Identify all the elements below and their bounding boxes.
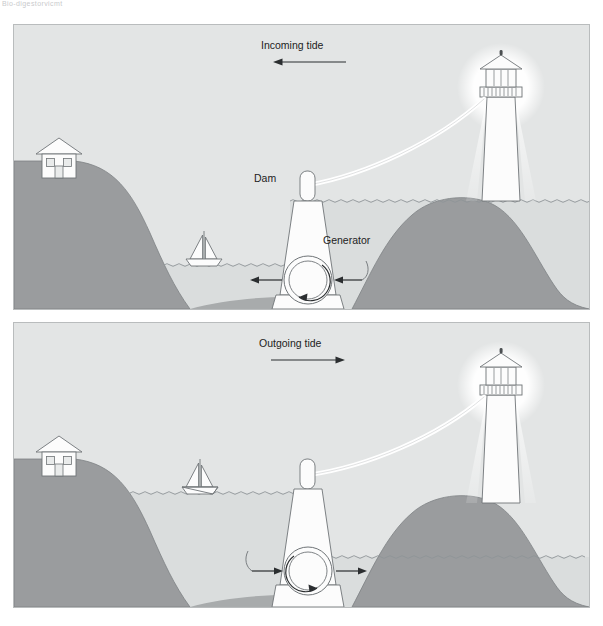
- generator-label: Generator: [323, 234, 370, 246]
- diagram-panel-outgoing-tide: Outgoing tide: [13, 322, 590, 608]
- faint-header-bar: Bio-digestorvicmt: [0, 0, 603, 9]
- lighthouse-icon: [480, 348, 522, 503]
- generator-turbine: [284, 547, 332, 595]
- dam-label: Dam: [254, 172, 276, 184]
- diagram-panel-incoming-tide: Incoming tide Dam Generator: [13, 24, 590, 310]
- outgoing-tide-title: Outgoing tide: [259, 337, 321, 349]
- incoming-tide-title: Incoming tide: [261, 39, 323, 51]
- faint-header-text: Bio-digestorvicmt: [2, 0, 62, 7]
- lighthouse-icon: [480, 50, 522, 201]
- generator-turbine: [284, 256, 332, 304]
